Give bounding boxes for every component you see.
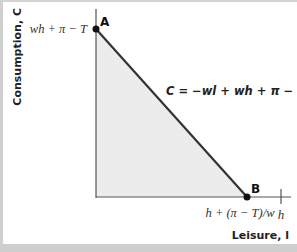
budget-line-equation: C = −wl + wh + π − T xyxy=(166,84,297,98)
point-a-value-label: wh + π − T xyxy=(30,22,88,36)
point-b-label: B xyxy=(251,182,260,196)
y-axis-label: Consumption, C xyxy=(11,8,24,106)
x-tick-h-label: h xyxy=(278,207,285,222)
point-b-value-label: h + (π − T)/w xyxy=(206,206,276,220)
point-a-marker xyxy=(93,26,100,33)
point-b-marker xyxy=(244,194,251,201)
x-axis-label: Leisure, l xyxy=(232,229,289,242)
point-a-label: A xyxy=(100,15,110,29)
budget-constraint-diagram: A B wh + π − T h + (π − T)/w h C = −wl +… xyxy=(0,0,297,252)
